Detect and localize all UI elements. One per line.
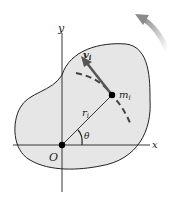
- origin-label: O: [49, 151, 58, 164]
- mass-point: [109, 92, 115, 98]
- y-axis-label: y: [57, 22, 65, 35]
- x-axis-label: x: [152, 139, 158, 150]
- origin-point: [59, 142, 65, 148]
- rigid-body-diagram: y x O vi mi ri θ: [0, 0, 177, 205]
- rotation-arrow-icon: [135, 14, 167, 50]
- angle-theta-label: θ: [84, 131, 90, 141]
